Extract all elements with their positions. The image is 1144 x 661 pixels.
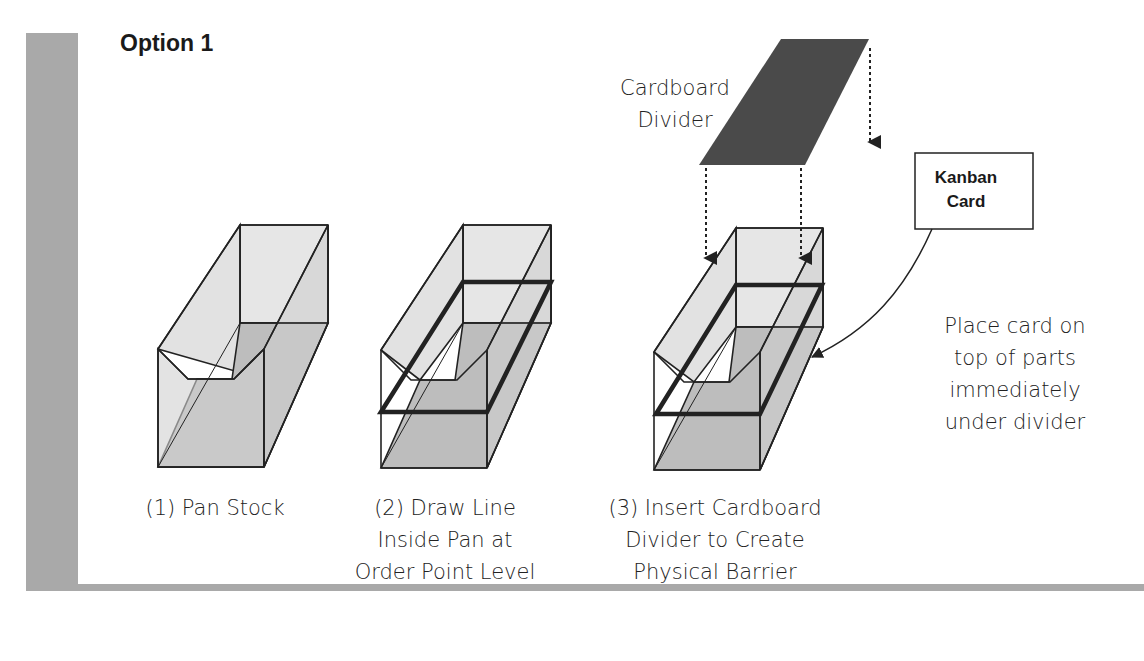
step-3-caption: (3) Insert Cardboard Divider to Create P… xyxy=(570,492,860,588)
placement-note: Place card on top of parts immediately u… xyxy=(905,310,1125,438)
step-2-caption: (2) Draw Line Inside Pan at Order Point … xyxy=(320,492,570,588)
divider-label: Cardboard Divider xyxy=(590,72,760,136)
pan-order-line-2 xyxy=(381,225,551,468)
kanban-card-label: Kanban Card xyxy=(908,166,1024,214)
pan-with-divider-3 xyxy=(654,228,823,470)
pan-stock-1 xyxy=(158,225,328,467)
step-1-caption: (1) Pan Stock xyxy=(100,492,330,524)
